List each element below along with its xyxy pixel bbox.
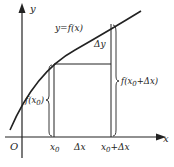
x-axis xyxy=(5,134,166,141)
y-axis-label: y xyxy=(29,3,36,14)
dx-tick-label: Δx xyxy=(73,142,86,152)
x0dx-tick-label: x0+Δx xyxy=(101,142,130,154)
fx0dx-brace-icon xyxy=(113,25,119,136)
dy-label: Δy xyxy=(93,39,106,49)
x-axis-label: x xyxy=(163,133,169,144)
fx0-brace-icon xyxy=(46,65,52,136)
y-axis-arrow-icon xyxy=(19,3,26,13)
derivative-diagram: y x O y=f(x) Δy f(x0) f(x0+Δx) x0 Δx x0+… xyxy=(0,0,174,167)
origin-label: O xyxy=(10,141,18,152)
y-axis xyxy=(19,3,26,158)
curve-label: y=f(x) xyxy=(54,23,84,33)
fx0dx-label: f(x0+Δx) xyxy=(120,76,158,88)
fx0-label: f(x0) xyxy=(24,95,44,107)
x0-tick-label: x0 xyxy=(50,142,60,154)
